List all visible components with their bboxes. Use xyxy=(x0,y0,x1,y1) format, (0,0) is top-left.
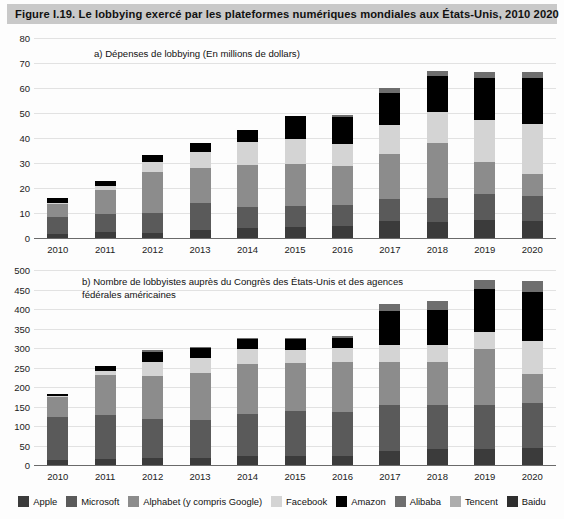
bar-stack[interactable] xyxy=(332,336,353,465)
bar-segment[interactable] xyxy=(427,310,448,345)
bar-segment[interactable] xyxy=(522,448,543,465)
bar-segment[interactable] xyxy=(95,232,116,238)
bar-stack[interactable] xyxy=(522,72,543,238)
bar-stack[interactable] xyxy=(142,155,163,238)
bar-segment[interactable] xyxy=(332,144,353,166)
bar-segment[interactable] xyxy=(332,348,353,363)
bar-segment[interactable] xyxy=(190,230,211,239)
bar-segment[interactable] xyxy=(522,124,543,173)
legend-item[interactable]: Alibaba xyxy=(395,496,441,507)
bar-segment[interactable] xyxy=(332,412,353,456)
bar-segment[interactable] xyxy=(379,221,400,239)
bar-segment[interactable] xyxy=(285,456,306,465)
bar-stack[interactable] xyxy=(142,350,163,465)
bar-segment[interactable] xyxy=(237,349,258,364)
bar-segment[interactable] xyxy=(427,449,448,465)
bar-segment[interactable] xyxy=(332,117,353,145)
bar-segment[interactable] xyxy=(379,362,400,405)
bar-segment[interactable] xyxy=(47,460,68,465)
bar-segment[interactable] xyxy=(379,125,400,154)
bar-stack[interactable] xyxy=(95,181,116,238)
bar-stack[interactable] xyxy=(379,88,400,238)
bar-segment[interactable] xyxy=(237,165,258,207)
bar-segment[interactable] xyxy=(190,458,211,465)
bar-segment[interactable] xyxy=(285,350,306,364)
bar-stack[interactable] xyxy=(379,304,400,465)
bar-segment[interactable] xyxy=(332,362,353,411)
bar-segment[interactable] xyxy=(427,362,448,405)
bar-segment[interactable] xyxy=(285,363,306,411)
bar-segment[interactable] xyxy=(237,339,258,349)
bar-segment[interactable] xyxy=(142,362,163,376)
bar-segment[interactable] xyxy=(142,352,163,362)
bar-segment[interactable] xyxy=(47,204,68,217)
bar-segment[interactable] xyxy=(190,168,211,203)
bar-stack[interactable] xyxy=(237,130,258,239)
bar-segment[interactable] xyxy=(285,227,306,238)
bar-segment[interactable] xyxy=(379,154,400,199)
bar-segment[interactable] xyxy=(474,220,495,239)
bar-segment[interactable] xyxy=(142,172,163,213)
bar-segment[interactable] xyxy=(332,226,353,238)
bar-segment[interactable] xyxy=(190,420,211,457)
bar-segment[interactable] xyxy=(142,419,163,458)
bar-segment[interactable] xyxy=(427,143,448,197)
bar-segment[interactable] xyxy=(332,456,353,465)
bar-stack[interactable] xyxy=(95,366,116,465)
bar-segment[interactable] xyxy=(522,374,543,402)
bar-segment[interactable] xyxy=(190,143,211,152)
bar-stack[interactable] xyxy=(474,72,495,238)
bar-segment[interactable] xyxy=(332,338,353,348)
bar-segment[interactable] xyxy=(427,222,448,239)
bar-segment[interactable] xyxy=(474,162,495,194)
bar-segment[interactable] xyxy=(190,348,211,358)
legend-item[interactable]: Baidu xyxy=(507,496,546,507)
bar-segment[interactable] xyxy=(332,166,353,205)
bar-segment[interactable] xyxy=(522,403,543,449)
bar-segment[interactable] xyxy=(237,364,258,413)
bar-segment[interactable] xyxy=(47,234,68,238)
legend-item[interactable]: Tencent xyxy=(450,496,498,507)
bar-segment[interactable] xyxy=(95,415,116,459)
bar-segment[interactable] xyxy=(379,345,400,362)
bar-segment[interactable] xyxy=(522,292,543,341)
bar-segment[interactable] xyxy=(522,221,543,238)
bar-segment[interactable] xyxy=(47,217,68,234)
bar-stack[interactable] xyxy=(285,116,306,238)
bar-stack[interactable] xyxy=(47,394,68,465)
bar-segment[interactable] xyxy=(427,345,448,363)
bar-segment[interactable] xyxy=(474,405,495,449)
bar-stack[interactable] xyxy=(332,115,353,238)
bar-segment[interactable] xyxy=(474,289,495,332)
legend-item[interactable]: Alphabet (y compris Google) xyxy=(128,496,262,507)
bar-segment[interactable] xyxy=(379,405,400,450)
bar-segment[interactable] xyxy=(142,233,163,238)
bar-segment[interactable] xyxy=(47,397,68,417)
bar-segment[interactable] xyxy=(285,206,306,227)
legend-item[interactable]: Microsoft xyxy=(66,496,119,507)
bar-segment[interactable] xyxy=(237,456,258,465)
bar-segment[interactable] xyxy=(237,207,258,228)
bar-segment[interactable] xyxy=(285,139,306,164)
bar-segment[interactable] xyxy=(285,411,306,455)
bar-segment[interactable] xyxy=(474,449,495,465)
bar-segment[interactable] xyxy=(47,417,68,460)
bar-segment[interactable] xyxy=(95,459,116,465)
bar-stack[interactable] xyxy=(237,338,258,465)
bar-segment[interactable] xyxy=(474,120,495,162)
legend-item[interactable]: Apple xyxy=(18,496,57,507)
bar-segment[interactable] xyxy=(285,164,306,206)
bar-stack[interactable] xyxy=(190,347,211,465)
bar-stack[interactable] xyxy=(522,281,543,465)
bar-segment[interactable] xyxy=(474,332,495,350)
bar-segment[interactable] xyxy=(190,358,211,374)
bar-segment[interactable] xyxy=(427,112,448,144)
bar-segment[interactable] xyxy=(427,198,448,222)
bar-segment[interactable] xyxy=(474,194,495,220)
legend-item[interactable]: Facebook xyxy=(271,496,327,507)
bar-segment[interactable] xyxy=(285,116,306,139)
bar-segment[interactable] xyxy=(379,451,400,465)
bar-segment[interactable] xyxy=(142,376,163,420)
bar-segment[interactable] xyxy=(142,162,163,172)
bar-segment[interactable] xyxy=(237,414,258,457)
